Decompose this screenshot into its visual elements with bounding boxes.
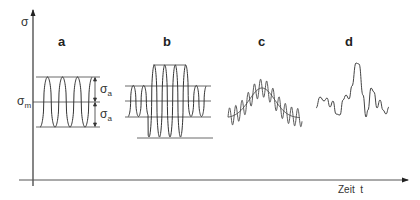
panel-b-reference-lines (125, 65, 213, 138)
sigma-a-subscript: a (107, 89, 111, 98)
y-axis-label: σ (21, 15, 28, 29)
panel-label-d: d (345, 34, 353, 49)
panel-c-waveform (228, 79, 302, 127)
sigma-a-label-lower: σa (100, 107, 112, 123)
sigma-m-subscript: m (24, 101, 31, 110)
sigma-m-label: σm (17, 94, 31, 110)
panel-c-mean-curve (228, 88, 300, 118)
stress-time-diagram (0, 0, 420, 200)
panel-d-waveform (316, 63, 389, 117)
sigma-a-label-upper: σa (100, 82, 112, 98)
panel-label-a: a (58, 34, 65, 49)
x-axis-label: Zeit t (338, 184, 363, 195)
panel-label-c: c (258, 34, 265, 49)
sigma-a-subscript: a (107, 114, 111, 123)
panel-label-b: b (163, 34, 171, 49)
